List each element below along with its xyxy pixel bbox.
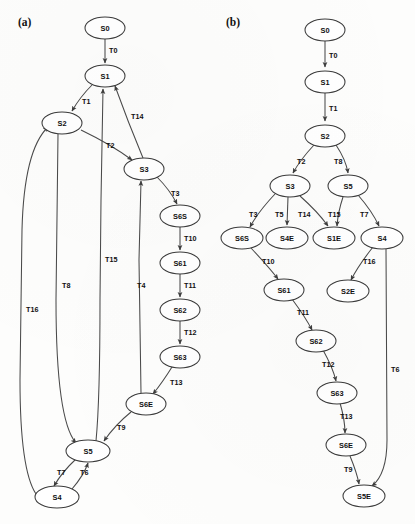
edge-label-a-T8: T8 <box>62 281 70 290</box>
panel-b-label: (b) <box>226 16 240 29</box>
edge-label-a-T7: T7 <box>57 468 65 477</box>
node-b-S5[interactable]: S5 <box>328 175 368 197</box>
edge-label-a-T11: T11 <box>184 281 196 290</box>
edge-label-b-T8: T8 <box>334 157 342 166</box>
edge-label-a-T9: T9 <box>117 423 125 432</box>
edge-label-a-T1: T1 <box>82 97 90 106</box>
edge-label-b-T7: T7 <box>360 210 368 219</box>
panel-a-label: (a) <box>18 16 32 29</box>
node-b-S2E-label: S2E <box>341 287 355 296</box>
edge-label-b-T11: T11 <box>297 308 309 317</box>
node-a-S4-label: S4 <box>52 493 62 502</box>
node-b-S61[interactable]: S61 <box>264 279 304 301</box>
edge-a-T14 <box>115 86 143 158</box>
edge-label-b-T5: T5 <box>275 210 283 219</box>
edge-label-b-T3: T3 <box>249 210 257 219</box>
edge-label-a-T13: T13 <box>170 378 182 387</box>
node-b-S4E[interactable]: S4E <box>266 227 308 249</box>
panel-b-nodes: S0 S1 S2 S3 S5 <box>221 19 403 507</box>
node-b-S62[interactable]: S62 <box>296 330 336 352</box>
edge-label-a-T15: T15 <box>105 255 117 264</box>
panel-b: (b) <box>221 16 403 507</box>
node-a-S62[interactable]: S62 <box>160 299 200 321</box>
edge-label-a-T6: T6 <box>80 468 88 477</box>
edge-label-b-T6: T6 <box>391 365 399 374</box>
panel-a-nodes: S0 S1 S2 S3 S6S <box>35 17 200 508</box>
node-a-S0[interactable]: S0 <box>85 17 125 39</box>
node-a-S3-label: S3 <box>139 165 148 174</box>
node-a-S6E[interactable]: S6E <box>126 393 166 415</box>
node-a-S62-label: S62 <box>173 306 186 315</box>
node-a-S6S[interactable]: S6S <box>160 205 200 227</box>
node-b-S3[interactable]: S3 <box>270 175 310 197</box>
node-a-S4[interactable]: S4 <box>35 486 79 508</box>
node-a-S3[interactable]: S3 <box>124 158 164 180</box>
node-b-S4[interactable]: S4 <box>361 227 403 249</box>
node-b-S2[interactable]: S2 <box>305 125 345 147</box>
node-a-S61-label: S61 <box>173 259 186 268</box>
node-b-S6E[interactable]: S6E <box>326 434 366 456</box>
node-b-S4-label: S4 <box>377 234 387 243</box>
node-b-S0-label: S0 <box>320 26 329 35</box>
node-b-S1E-label: S1E <box>327 234 341 243</box>
node-a-S2-label: S2 <box>57 119 66 128</box>
edge-label-a-T3: T3 <box>171 189 179 198</box>
edge-label-b-T1: T1 <box>329 104 337 113</box>
state-diagram-svg: (a) <box>0 0 415 524</box>
edge-b-T6 <box>372 249 387 486</box>
node-a-S1-label: S1 <box>100 72 109 81</box>
edge-label-a-T4: T4 <box>137 281 145 290</box>
edge-label-b-T0: T0 <box>329 51 337 60</box>
node-b-S0[interactable]: S0 <box>305 19 345 41</box>
panel-a-edges <box>20 39 180 494</box>
node-b-S62-label: S62 <box>309 337 322 346</box>
figure-canvas: (a) <box>0 0 415 524</box>
node-b-S6S[interactable]: S6S <box>221 227 263 249</box>
edge-label-b-T10: T10 <box>262 257 274 266</box>
edge-b-T5 <box>287 197 288 225</box>
edge-label-b-T12: T12 <box>322 360 334 369</box>
edge-label-b-T14: T14 <box>298 210 310 219</box>
node-b-S1-label: S1 <box>320 78 329 87</box>
edge-label-a-T10: T10 <box>184 234 196 243</box>
node-b-S63[interactable]: S63 <box>317 382 357 404</box>
panel-b-edge-labels: T0 T1 T2 T8 T3 T5 T14 T15 T7 T10 T16 T11… <box>249 51 399 474</box>
node-b-S2-label: S2 <box>320 132 329 141</box>
node-b-S5E[interactable]: S5E <box>343 485 385 507</box>
node-b-S61-label: S61 <box>277 286 290 295</box>
node-a-S0-label: S0 <box>100 24 109 33</box>
edge-label-b-T15: T15 <box>328 210 340 219</box>
node-a-S1[interactable]: S1 <box>85 65 125 87</box>
node-a-S61[interactable]: S61 <box>160 252 200 274</box>
node-b-S5E-label: S5E <box>357 492 371 501</box>
edge-label-a-T12: T12 <box>184 328 196 337</box>
node-a-S5-label: S5 <box>83 447 92 456</box>
node-b-S1[interactable]: S1 <box>305 71 345 93</box>
edge-label-b-T13: T13 <box>340 412 352 421</box>
node-b-S3-label: S3 <box>285 182 294 191</box>
node-b-S6E-label: S6E <box>339 441 353 450</box>
edge-label-a-T2: T2 <box>106 141 114 150</box>
panel-a: (a) <box>18 16 200 508</box>
node-a-S6S-label: S6S <box>173 212 187 221</box>
node-a-S6E-label: S6E <box>139 400 153 409</box>
edge-label-b-T2: T2 <box>297 157 305 166</box>
node-b-S1E[interactable]: S1E <box>313 227 355 249</box>
node-b-S4E-label: S4E <box>280 234 294 243</box>
node-a-S63[interactable]: S63 <box>160 346 200 368</box>
edge-label-a-T0: T0 <box>109 46 117 55</box>
node-b-S2E[interactable]: S2E <box>327 280 369 302</box>
node-b-S63-label: S63 <box>330 389 343 398</box>
node-a-S5[interactable]: S5 <box>66 440 110 462</box>
edge-label-b-T9: T9 <box>344 465 352 474</box>
node-b-S6S-label: S6S <box>235 234 249 243</box>
node-b-S5-label: S5 <box>343 182 352 191</box>
edge-label-b-T16: T16 <box>363 257 375 266</box>
node-a-S63-label: S63 <box>173 353 186 362</box>
node-a-S2[interactable]: S2 <box>42 112 82 134</box>
edge-a-T15 <box>96 89 103 441</box>
edge-label-a-T14: T14 <box>131 112 143 121</box>
edge-label-a-T16: T16 <box>26 305 38 314</box>
